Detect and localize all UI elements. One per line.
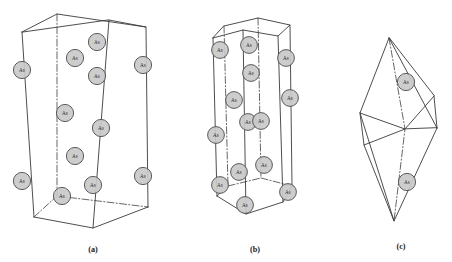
atom-label: As	[94, 73, 100, 79]
edge-upper-rhombus-c	[360, 38, 434, 129]
atom-label: As	[242, 202, 248, 208]
panel-b: As As As As As As As As As As As As As A…	[208, 18, 299, 254]
atom-label: As	[217, 182, 223, 188]
crystal-structure-figure: As As As As As As As As As As As As (a)	[0, 0, 452, 262]
figure-canvas: As As As As As As As As As As As As (a)	[0, 0, 452, 262]
atom: As	[56, 104, 73, 121]
atom-label: As	[261, 162, 267, 168]
edge-left-lower-c	[360, 113, 394, 221]
atom-label: As	[236, 169, 242, 175]
atom-label: As	[403, 79, 409, 85]
atom-label: As	[287, 95, 293, 101]
panel-c-visible-edges	[360, 38, 437, 221]
atom: As	[13, 61, 30, 78]
atom: As	[53, 187, 70, 204]
atom-label: As	[140, 173, 146, 179]
atom: As	[66, 49, 83, 66]
atom: As	[92, 119, 109, 136]
atom-label: As	[72, 55, 78, 61]
edge-top-face-a	[22, 14, 146, 32]
atom: As	[212, 177, 229, 194]
atom-label: As	[258, 118, 264, 124]
atom-label: As	[19, 178, 25, 184]
atom: As	[84, 176, 101, 193]
atom-label: As	[246, 42, 252, 48]
atom: As	[88, 67, 105, 84]
atom-label: As	[231, 97, 237, 103]
panel-a: As As As As As As As As As As As As (a)	[13, 14, 151, 254]
hidden-edge-back-bottom-mid-b	[228, 178, 261, 186]
atom: As	[231, 164, 248, 181]
atom-label: As	[94, 39, 100, 45]
atom: As	[88, 33, 105, 50]
atom: As	[226, 92, 243, 109]
panel-b-atoms: As As As As As As As As As As As As As A…	[208, 37, 299, 214]
atom: As	[280, 184, 297, 201]
atom: As	[241, 37, 258, 54]
atom-label: As	[59, 193, 65, 199]
edge-bottom-face-a	[34, 207, 148, 228]
atom-label: As	[140, 62, 146, 68]
atom-label: As	[283, 55, 289, 61]
panel-c-atoms: As As	[397, 73, 415, 190]
atom-label: As	[213, 132, 219, 138]
atom-label: As	[98, 125, 104, 131]
atom-label: As	[19, 67, 25, 73]
atom-label: As	[285, 189, 291, 195]
atom-label: As	[72, 153, 78, 159]
atom: As	[212, 42, 229, 59]
panel-a-visible-edges	[22, 14, 148, 228]
edge-vertical-left-b	[213, 38, 217, 196]
atom: As	[253, 113, 270, 130]
panel-caption-a: (a)	[88, 245, 98, 254]
panel-a-atoms: As As As As As As As As As As As As	[13, 33, 151, 204]
panel-caption-b: (b)	[250, 245, 260, 254]
atom: As	[397, 73, 414, 90]
atom-label: As	[217, 47, 223, 53]
atom: As	[13, 172, 30, 189]
atom: As	[237, 197, 254, 214]
atom-label: As	[62, 110, 68, 116]
atom: As	[243, 65, 260, 82]
atom: As	[278, 50, 295, 67]
atom-label: As	[248, 70, 254, 76]
atom-label: As	[90, 182, 96, 188]
panel-c: As As (c)	[360, 38, 437, 251]
atom-label: As	[245, 119, 251, 125]
atom: As	[256, 157, 273, 174]
atom: As	[398, 173, 415, 190]
atom: As	[66, 147, 83, 164]
edge-top-hexagon-b	[213, 18, 290, 38]
hidden-edge-back-mid-vertical-b	[258, 18, 261, 178]
atom: As	[208, 127, 225, 144]
atom: As	[282, 90, 299, 107]
atom: As	[134, 56, 151, 73]
atom: As	[134, 167, 151, 184]
edge-lower-rhombus-c	[364, 128, 437, 221]
panel-caption-c: (c)	[396, 242, 405, 251]
edge-left-face-c	[360, 113, 364, 145]
atom-label: As	[404, 179, 410, 185]
